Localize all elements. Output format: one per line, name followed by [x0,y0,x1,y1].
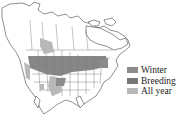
legend-label: Breeding [141,76,176,86]
legend-item-all-year: All year [127,86,176,96]
legend-label: All year [141,86,172,96]
winter-swatch [127,67,138,73]
legend-label: Winter [141,65,167,75]
map-legend: Winter Breeding All year [127,65,176,97]
breeding-swatch [127,78,138,84]
legend-item-breeding: Breeding [127,76,176,86]
all-year-swatch [127,88,138,94]
legend-item-winter: Winter [127,65,176,75]
range-map [0,0,182,121]
